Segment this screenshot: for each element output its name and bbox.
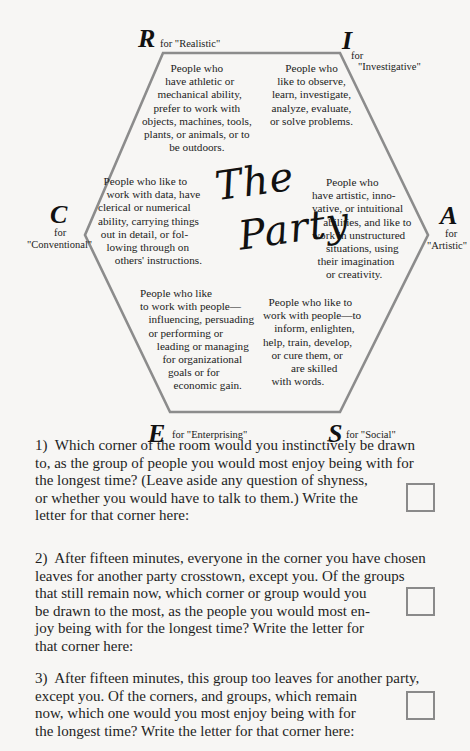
- corner-letter-r: R: [138, 26, 155, 52]
- question-3-answer-box[interactable]: [406, 691, 435, 720]
- investigative-description: People who like to observe, learn, inves…: [270, 62, 353, 128]
- realistic-description: People who have athletic or mechanical a…: [142, 62, 252, 154]
- social-description: People who like to work with people—to i…: [263, 296, 361, 388]
- question-3-text: 3) After fifteen minutes, this group too…: [35, 670, 385, 740]
- question-2-text: 2) After fifteen minutes, everyone in th…: [35, 550, 385, 656]
- party-hexagon-diagram: R for "Realistic" People who have athlet…: [0, 0, 470, 425]
- conventional-description: People who like to work with data, have …: [98, 175, 202, 267]
- corner-label-conventional: "Conventional": [27, 239, 92, 251]
- corner-label-realistic: for "Realistic": [160, 38, 220, 50]
- question-2-answer-box[interactable]: [406, 587, 435, 616]
- corner-label-for-conventional: for: [54, 227, 66, 239]
- corner-letter-a: A: [440, 203, 457, 229]
- corner-label-artistic: "Artistic": [427, 240, 467, 252]
- corner-label-investigative: "Investigative": [358, 61, 421, 73]
- enterprising-description: People who like to work with people— inf…: [140, 287, 254, 393]
- corner-letter-c: C: [50, 202, 67, 228]
- question-1-text: 1) Which corner of the room would you in…: [35, 437, 385, 525]
- question-1-answer-box[interactable]: [406, 483, 435, 512]
- corner-label-for-artistic: for: [445, 228, 457, 240]
